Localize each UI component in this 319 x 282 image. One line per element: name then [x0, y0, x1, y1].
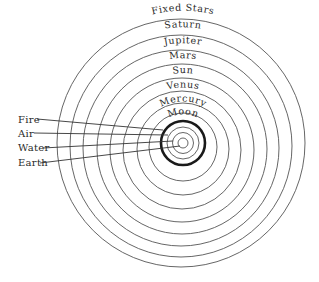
label-earth: Earth — [18, 157, 48, 168]
label-jupiter: Jupiter — [162, 34, 203, 47]
label-water: Water — [18, 142, 50, 153]
ring-moon — [149, 113, 217, 181]
ring-water — [173, 133, 194, 154]
label-venus: Venus — [164, 79, 200, 92]
label-air: Air — [17, 128, 34, 139]
label-moon: Moon — [166, 105, 200, 119]
ring-sun — [110, 78, 254, 222]
element-leaders — [34, 119, 180, 163]
element-rings — [161, 121, 205, 165]
leader-air — [34, 133, 168, 135]
ring-fire — [161, 121, 205, 165]
label-sun: Sun — [172, 64, 194, 76]
element-labels: Fire Air Water Earth — [17, 114, 50, 168]
label-saturn: Saturn — [164, 18, 203, 30]
leader-water — [43, 141, 173, 148]
label-fire: Fire — [18, 114, 40, 125]
ring-air — [167, 127, 199, 159]
geocentric-cosmos-diagram: Fixed Stars Saturn Jupiter Mars Sun Venu… — [0, 0, 319, 282]
label-mars: Mars — [169, 49, 198, 61]
label-fixed-stars: Fixed Stars — [150, 2, 215, 17]
sphere-labels: Fixed Stars Saturn Jupiter Mars Sun Venu… — [150, 2, 215, 120]
